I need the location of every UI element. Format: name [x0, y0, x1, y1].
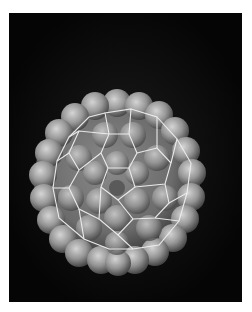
image-panel [9, 13, 242, 302]
fullerene-molecule [9, 13, 242, 302]
